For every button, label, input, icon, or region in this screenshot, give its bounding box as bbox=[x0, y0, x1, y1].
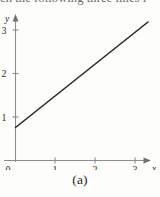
coordinate-plot: 1 2 3 0 1 2 3 y x bbox=[0, 10, 160, 170]
figure-panel: ch the following three lines i 1 2 3 0 1 bbox=[0, 0, 160, 197]
plot-svg: 1 2 3 0 1 2 3 y x bbox=[0, 10, 160, 170]
y-tick-label-1: 1 bbox=[2, 112, 7, 123]
y-tick-label-3: 3 bbox=[2, 25, 7, 36]
x-tick-label-1: 1 bbox=[53, 164, 58, 170]
x-tick-label-2: 2 bbox=[93, 164, 98, 170]
y-axis-arrowhead bbox=[13, 14, 19, 22]
origin-label: 0 bbox=[6, 164, 11, 170]
x-tick-label-3: 3 bbox=[133, 164, 138, 170]
clipped-header-text: ch the following three lines i bbox=[0, 0, 160, 7]
x-axis-arrowhead bbox=[144, 158, 152, 164]
y-tick-label-2: 2 bbox=[2, 68, 7, 79]
data-line-series-1 bbox=[16, 22, 149, 128]
figure-caption: (a) bbox=[0, 172, 160, 188]
y-axis-label: y bbox=[4, 14, 10, 24]
x-axis-label: x bbox=[151, 164, 157, 170]
